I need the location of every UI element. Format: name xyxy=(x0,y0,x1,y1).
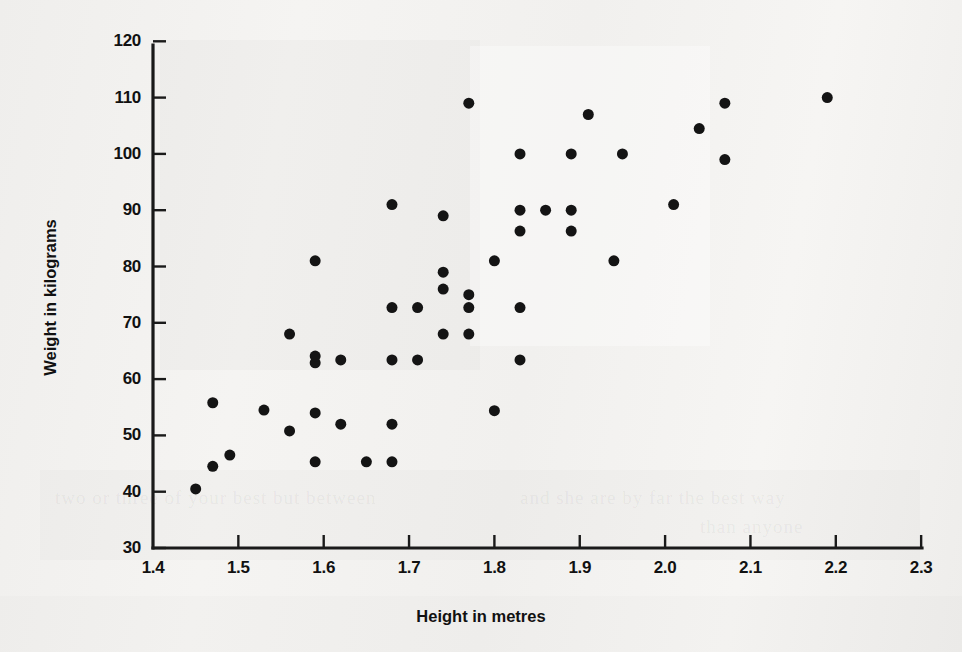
x-axis-tick-label: 2.2 xyxy=(808,558,864,578)
x-axis-tick-label: 1.7 xyxy=(381,558,437,578)
y-axis-tick-label: 70 xyxy=(95,313,141,333)
data-point xyxy=(310,456,321,467)
data-point-group xyxy=(190,92,833,494)
data-point xyxy=(463,302,474,313)
data-point xyxy=(284,329,295,340)
data-point xyxy=(438,284,449,295)
data-point xyxy=(412,354,423,365)
data-point xyxy=(463,98,474,109)
data-point xyxy=(719,154,730,165)
data-point xyxy=(515,148,526,159)
data-point xyxy=(489,255,500,266)
data-point xyxy=(335,419,346,430)
data-point xyxy=(608,255,619,266)
y-axis-title: Weight in kilograms xyxy=(41,188,60,408)
data-point xyxy=(207,397,218,408)
data-point xyxy=(668,199,679,210)
x-axis-tick-label: 1.9 xyxy=(552,558,608,578)
data-point xyxy=(583,109,594,120)
data-point xyxy=(412,302,423,313)
data-point xyxy=(719,98,730,109)
data-point xyxy=(515,226,526,237)
y-axis-tick-label: 90 xyxy=(95,200,141,220)
data-point xyxy=(617,148,628,159)
data-point xyxy=(515,354,526,365)
data-point xyxy=(438,329,449,340)
data-point xyxy=(386,419,397,430)
data-point xyxy=(310,351,321,362)
x-axis-tick-label: 1.4 xyxy=(125,558,181,578)
x-axis-tick-label: 1.6 xyxy=(296,558,352,578)
y-axis-tick-label: 120 xyxy=(95,31,141,51)
data-point xyxy=(361,456,372,467)
data-point xyxy=(386,456,397,467)
data-point xyxy=(463,289,474,300)
data-point xyxy=(566,148,577,159)
data-point xyxy=(566,226,577,237)
data-point xyxy=(438,210,449,221)
data-point xyxy=(822,92,833,103)
y-axis-tick-label: 50 xyxy=(95,425,141,445)
data-point xyxy=(515,302,526,313)
x-axis-tick-label: 2.3 xyxy=(893,558,949,578)
x-axis-tick-label: 1.5 xyxy=(210,558,266,578)
plot-canvas xyxy=(0,0,962,652)
y-axis-ticks xyxy=(153,41,166,548)
axes-group xyxy=(153,45,922,548)
scatter-plot-figure: two or three of your best but between an… xyxy=(0,0,962,652)
y-axis-tick-label: 30 xyxy=(95,538,141,558)
data-point xyxy=(258,405,269,416)
data-point xyxy=(310,255,321,266)
data-point xyxy=(438,267,449,278)
y-axis-tick-label: 40 xyxy=(95,482,141,502)
x-axis-title: Height in metres xyxy=(0,607,962,626)
y-axis-tick-label: 60 xyxy=(95,369,141,389)
data-point xyxy=(694,123,705,134)
x-axis-tick-label: 1.8 xyxy=(466,558,522,578)
data-point xyxy=(335,354,346,365)
y-axis-tick-label: 80 xyxy=(95,257,141,277)
data-point xyxy=(310,407,321,418)
data-point xyxy=(190,483,201,494)
x-axis-ticks xyxy=(238,535,921,548)
y-axis-tick-label: 100 xyxy=(95,144,141,164)
data-point xyxy=(386,354,397,365)
data-point xyxy=(515,205,526,216)
data-point xyxy=(207,461,218,472)
x-axis-tick-label: 2.0 xyxy=(637,558,693,578)
x-axis-tick-label: 2.1 xyxy=(722,558,778,578)
data-point xyxy=(566,205,577,216)
data-point xyxy=(224,450,235,461)
data-point xyxy=(463,329,474,340)
data-point xyxy=(284,425,295,436)
data-point xyxy=(489,405,500,416)
data-point xyxy=(386,199,397,210)
data-point xyxy=(386,302,397,313)
y-axis-tick-label: 110 xyxy=(95,88,141,108)
data-point xyxy=(540,205,551,216)
